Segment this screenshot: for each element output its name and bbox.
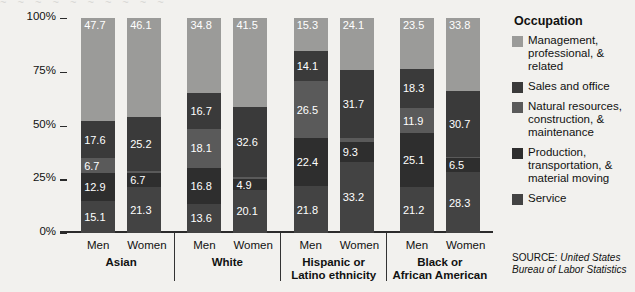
y-tick-label: 0% bbox=[22, 225, 56, 237]
y-tick-label: 75% bbox=[22, 64, 56, 76]
bar-women[interactable]: 20.14.932.641.5 bbox=[233, 18, 267, 233]
bar-segment-service[interactable]: 21.2 bbox=[400, 187, 434, 233]
x-label-women: Women bbox=[340, 239, 374, 251]
stacked-bar-chart-figure: Percent distribution 100%75%50%25%0% 15.… bbox=[0, 0, 635, 292]
bar-segment-sales[interactable]: 16.7 bbox=[187, 93, 221, 129]
bar-men[interactable]: 13.616.818.116.734.8 bbox=[187, 18, 221, 233]
bar-segment-sales[interactable]: 25.2 bbox=[127, 117, 161, 171]
bar-segment-management[interactable]: 23.5 bbox=[400, 18, 434, 69]
bar-women[interactable]: 21.36.725.246.1 bbox=[127, 18, 161, 233]
bar-segment-service[interactable]: 20.1 bbox=[233, 190, 267, 233]
legend-item-label: Production, transportation, & material m… bbox=[528, 146, 634, 185]
bar-women[interactable]: 33.29.331.724.1 bbox=[340, 18, 374, 233]
bar-segment-service[interactable]: 28.3 bbox=[446, 172, 480, 233]
y-tick-label: 50% bbox=[22, 118, 56, 130]
bar-segment-service[interactable]: 21.8 bbox=[294, 186, 328, 233]
bar-segment-production[interactable]: 9.3 bbox=[340, 142, 374, 162]
bar-segment-natural[interactable]: 26.5 bbox=[294, 81, 328, 138]
y-tick-mark bbox=[60, 179, 67, 180]
bar-segment-service[interactable]: 21.3 bbox=[127, 187, 161, 233]
x-axis-group-white: MenWomenWhite bbox=[174, 235, 280, 287]
bar-segment-sales[interactable]: 14.1 bbox=[294, 51, 328, 81]
bar-segment-production[interactable]: 6.7 bbox=[127, 173, 161, 187]
chart-legend: Occupation Management, professional, & r… bbox=[512, 14, 634, 212]
bar-segment-sales[interactable]: 30.7 bbox=[446, 91, 480, 157]
x-label-women: Women bbox=[446, 239, 480, 251]
legend-item-production[interactable]: Production, transportation, & material m… bbox=[512, 146, 634, 185]
bar-segment-natural[interactable]: 6.7 bbox=[81, 158, 115, 172]
bar-segment-service[interactable]: 33.2 bbox=[340, 162, 374, 233]
bar-segment-sales[interactable]: 18.3 bbox=[400, 69, 434, 108]
bar-group-white: 13.616.818.116.734.820.14.932.641.5 bbox=[174, 18, 280, 233]
y-tick-mark bbox=[60, 18, 67, 19]
bar-group-asian: 15.112.96.717.647.721.36.725.246.1 bbox=[68, 18, 174, 233]
bar-segment-management[interactable]: 24.1 bbox=[340, 18, 374, 70]
x-label-women: Women bbox=[127, 239, 161, 251]
legend-swatch-production-icon bbox=[512, 148, 523, 159]
plot-area: Percent distribution 100%75%50%25%0% 15.… bbox=[68, 18, 493, 233]
bar-segment-management[interactable]: 46.1 bbox=[127, 18, 161, 117]
y-tick-mark bbox=[60, 126, 67, 127]
bar-segment-sales[interactable]: 32.6 bbox=[233, 107, 267, 177]
y-tick-mark bbox=[60, 72, 67, 73]
bar-segment-management[interactable]: 33.8 bbox=[446, 18, 480, 91]
bar-segment-natural[interactable]: 11.9 bbox=[400, 108, 434, 134]
bar-segment-service[interactable]: 15.1 bbox=[81, 201, 115, 233]
x-label-men: Men bbox=[400, 239, 434, 251]
legend-swatch-sales-icon bbox=[512, 82, 523, 93]
legend-item-management[interactable]: Management, professional, & related bbox=[512, 34, 634, 73]
bar-segment-production[interactable]: 6.5 bbox=[446, 158, 480, 172]
bar-men[interactable]: 21.225.111.918.323.5 bbox=[400, 18, 434, 233]
legend-swatch-natural-icon bbox=[512, 102, 523, 113]
bar-segment-natural[interactable]: 18.1 bbox=[187, 129, 221, 168]
bar-segment-management[interactable]: 41.5 bbox=[233, 18, 267, 107]
x-label-women: Women bbox=[233, 239, 267, 251]
bar-segment-production[interactable]: 4.9 bbox=[233, 179, 267, 190]
legend-swatch-management-icon bbox=[512, 36, 523, 47]
bar-segment-production[interactable]: 25.1 bbox=[400, 133, 434, 187]
legend-item-label: Natural resources, construction, & maint… bbox=[528, 100, 634, 139]
x-label-men: Men bbox=[294, 239, 328, 251]
bar-segment-production[interactable]: 12.9 bbox=[81, 173, 115, 201]
gender-labels: MenWomen bbox=[187, 239, 267, 251]
bar-men[interactable]: 15.112.96.717.647.7 bbox=[81, 18, 115, 233]
x-group-category-label: Black orAfrican American bbox=[392, 256, 487, 282]
bar-group-hispanic-or-latino-ethnicity: 21.822.426.514.115.333.29.331.724.1 bbox=[281, 18, 387, 233]
legend-item-label: Management, professional, & related bbox=[528, 34, 634, 73]
source-label: SOURCE: bbox=[512, 252, 560, 263]
bar-segment-sales[interactable]: 17.6 bbox=[81, 121, 115, 159]
x-label-men: Men bbox=[81, 239, 115, 251]
y-tick-mark bbox=[60, 233, 67, 234]
source-note: SOURCE: United States Bureau of Labor St… bbox=[512, 252, 635, 276]
x-axis-group-hispanic-or: MenWomenHispanic orLatino ethnicity bbox=[281, 235, 387, 287]
bar-segment-sales[interactable]: 31.7 bbox=[340, 70, 374, 138]
legend-items: Management, professional, & relatedSales… bbox=[512, 34, 634, 205]
bar-segment-management[interactable]: 47.7 bbox=[81, 18, 115, 121]
x-group-category-label: Hispanic orLatino ethnicity bbox=[291, 256, 376, 282]
legend-item-label: Service bbox=[528, 192, 566, 205]
gender-labels: MenWomen bbox=[81, 239, 161, 251]
legend-item-sales[interactable]: Sales and office bbox=[512, 80, 634, 93]
bar-segment-production[interactable]: 16.8 bbox=[187, 168, 221, 204]
legend-swatch-service-icon bbox=[512, 194, 523, 205]
x-axis-labels: MenWomenAsianMenWomenWhiteMenWomenHispan… bbox=[68, 235, 493, 287]
y-tick-label: 100% bbox=[22, 10, 56, 22]
bar-segment-service[interactable]: 13.6 bbox=[187, 204, 221, 233]
legend-item-label: Sales and office bbox=[528, 80, 610, 93]
bar-segment-management[interactable]: 34.8 bbox=[187, 18, 221, 93]
y-tick-0pct: 0% bbox=[22, 233, 493, 234]
gender-labels: MenWomen bbox=[400, 239, 480, 251]
x-axis-group-black-or: MenWomenBlack orAfrican American bbox=[387, 235, 493, 287]
x-axis-group-asian: MenWomenAsian bbox=[68, 235, 174, 287]
x-group-category-label: Asian bbox=[105, 256, 136, 269]
bar-series-container: 15.112.96.717.647.721.36.725.246.113.616… bbox=[68, 18, 493, 233]
legend-item-natural[interactable]: Natural resources, construction, & maint… bbox=[512, 100, 634, 139]
x-group-category-label: White bbox=[212, 256, 243, 269]
bar-men[interactable]: 21.822.426.514.115.3 bbox=[294, 18, 328, 233]
bar-women[interactable]: 28.36.530.733.8 bbox=[446, 18, 480, 233]
bar-segment-production[interactable]: 22.4 bbox=[294, 138, 328, 186]
x-label-men: Men bbox=[187, 239, 221, 251]
bar-segment-management[interactable]: 15.3 bbox=[294, 18, 328, 51]
gender-labels: MenWomen bbox=[294, 239, 374, 251]
legend-item-service[interactable]: Service bbox=[512, 192, 634, 205]
